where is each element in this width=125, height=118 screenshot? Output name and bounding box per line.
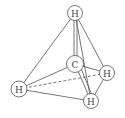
bond-top-left bbox=[19, 13, 75, 89]
atom-label-carbon: C bbox=[72, 60, 79, 70]
bond-left-bottom bbox=[19, 89, 91, 101]
methane-tetrahedron-diagram: H C H H H bbox=[0, 0, 125, 118]
bond-left-right-dashed bbox=[19, 73, 107, 89]
atom-label-h-right: H bbox=[103, 69, 111, 79]
atom-carbon: C bbox=[67, 56, 84, 73]
atom-h-bottom: H bbox=[84, 94, 99, 109]
atom-h-right: H bbox=[100, 66, 115, 81]
bonds bbox=[19, 13, 107, 101]
atom-label-h-left: H bbox=[15, 85, 23, 95]
atom-h-top: H bbox=[68, 6, 83, 21]
atom-label-h-top: H bbox=[71, 9, 79, 19]
atom-h-left: H bbox=[11, 81, 27, 97]
bond-left-carbon bbox=[19, 64, 75, 89]
atom-label-h-bottom: H bbox=[87, 97, 95, 107]
